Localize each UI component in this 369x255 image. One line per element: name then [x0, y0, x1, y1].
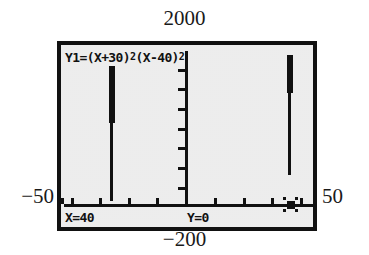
trace-cursor-corner	[283, 197, 286, 200]
y-axis-tick	[178, 128, 185, 131]
screen-surface: Y1=(X+30)2(X-40)2	[61, 45, 313, 227]
x-axis-min-label: −50	[8, 186, 54, 207]
trace-cursor-center	[287, 201, 295, 209]
trace-cursor-corner	[295, 197, 298, 200]
curve-left-branch-lower	[110, 121, 113, 201]
x-axis-tick	[128, 198, 131, 204]
equation-left-factor: Y1=(X+30)	[65, 50, 130, 65]
x-axis	[64, 204, 313, 207]
y-axis	[185, 51, 188, 207]
trace-cursor-corner	[283, 209, 286, 212]
trace-x-readout: X=40	[65, 211, 94, 224]
calculator-screen: Y1=(X+30)2(X-40)2	[57, 41, 317, 231]
y-axis-tick	[178, 167, 185, 170]
equation-label: Y1=(X+30)2(X-40)2	[65, 51, 184, 64]
x-axis-tick	[156, 198, 159, 204]
y-axis-tick	[178, 147, 185, 150]
curve-right-branch-lower	[288, 91, 291, 175]
y-axis-min-label: −200	[0, 229, 369, 250]
curve-right-branch-upper	[287, 55, 293, 93]
trace-cursor-icon[interactable]	[283, 197, 298, 212]
x-axis-tick	[214, 198, 217, 204]
x-axis-tick	[243, 198, 246, 204]
x-axis-tick	[99, 198, 102, 204]
curve-left-branch-upper	[109, 66, 115, 123]
equation-right-factor: (X-40)	[135, 50, 178, 65]
y-axis-max-label: 2000	[0, 8, 369, 29]
x-axis-tick	[61, 198, 64, 204]
x-axis-tick	[300, 198, 303, 204]
y-axis-tick	[178, 88, 185, 91]
x-axis-tick	[271, 198, 274, 204]
trace-cursor-corner	[295, 209, 298, 212]
x-axis-tick	[71, 198, 74, 204]
x-axis-max-label: 50	[322, 186, 366, 207]
y-axis-tick	[178, 69, 185, 72]
y-axis-tick	[178, 108, 185, 111]
equation-exponent-right: 2	[179, 51, 184, 62]
y-axis-tick	[178, 187, 185, 190]
trace-y-readout: Y=0	[187, 211, 209, 224]
